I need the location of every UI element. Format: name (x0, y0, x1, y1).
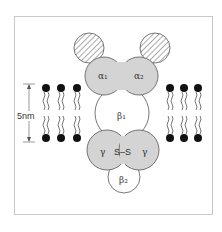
lipid-bottom-left-2 (57, 116, 65, 142)
lipid-top-right-2 (180, 84, 188, 110)
lipid-top-left-2 (57, 84, 65, 110)
alpha1-label: α₁ (98, 71, 108, 81)
lipid-bilayer-right (166, 84, 202, 142)
lipid-top-left-3 (73, 84, 81, 110)
alpha2-label: α₂ (134, 71, 144, 81)
lipid-top-left-1 (42, 84, 50, 110)
beta2-label: β₂ (119, 175, 128, 185)
beta1-label: β₁ (117, 111, 126, 121)
lipid-bilayer-left (42, 84, 81, 142)
gamma-left-label: γ (100, 147, 105, 157)
protein-diagram: 5nm α₁ α₂ β₁ γ γ S–S β₂ (0, 0, 222, 232)
lipid-bottom-left-3 (73, 116, 81, 142)
lipid-top-right-1 (166, 84, 174, 110)
alpha-join (115, 62, 128, 90)
lipid-bottom-right-3 (194, 116, 202, 142)
disulfide-label: S–S (114, 147, 131, 157)
lipid-top-right-3 (194, 84, 202, 110)
lipid-bottom-right-2 (180, 116, 188, 142)
gamma-right-label: γ (142, 147, 147, 157)
lipid-bottom-right-1 (166, 116, 174, 142)
lipid-bottom-left-1 (42, 116, 50, 142)
scale-label: 5nm (17, 111, 35, 121)
